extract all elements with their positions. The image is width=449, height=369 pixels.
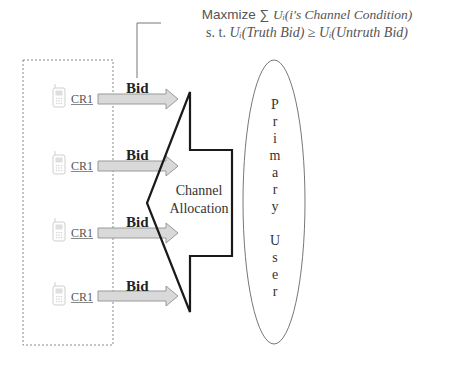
cr-label-1: CR1 [71,92,93,107]
phone-icon [52,151,66,175]
phone-icon [52,218,66,242]
bid-label-4: Bid [126,278,149,295]
channel-allocation-label: Channel Allocation [160,182,238,218]
formula-connector [137,23,161,78]
primary-user-label: P r i m a r y U s e r [262,96,288,300]
cr-label-3: CR1 [71,226,93,241]
bid-label-1: Bid [126,80,149,97]
bid-label-3: Bid [126,214,149,231]
cr-label-4: CR1 [71,290,93,305]
phone-icon [52,84,66,108]
bid-label-2: Bid [126,147,149,164]
phone-icon [52,282,66,306]
cr-label-2: CR1 [71,159,93,174]
